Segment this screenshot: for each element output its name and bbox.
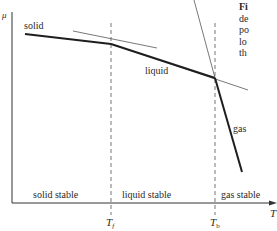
caption-line: Fi [239, 1, 249, 13]
tf-marker-label: Tf [106, 217, 114, 231]
caption-line: po [239, 24, 249, 36]
caption-fragment: Fi de po lo th [239, 1, 249, 59]
gas-label: gas [233, 123, 246, 134]
caption-line: th [239, 47, 249, 59]
liquid-label: liquid [145, 65, 168, 76]
solid-label: solid [24, 20, 43, 31]
solid-curve [25, 34, 111, 44]
solid-stable-label: solid stable [33, 189, 78, 200]
liquid-stable-label: liquid stable [122, 189, 171, 200]
gas-extension-line [194, 0, 215, 78]
x-axis-arrow-icon [269, 201, 277, 206]
y-axis-label: μ [2, 10, 7, 21]
caption-line: lo [239, 36, 249, 48]
tb-sub: b [216, 222, 220, 230]
tf-sub: f [112, 222, 114, 230]
gas-stable-label: gas stable [221, 189, 260, 200]
x-axis-label: T [270, 208, 276, 219]
tb-marker-label: Tb [210, 217, 220, 231]
caption-line: de [239, 13, 249, 25]
